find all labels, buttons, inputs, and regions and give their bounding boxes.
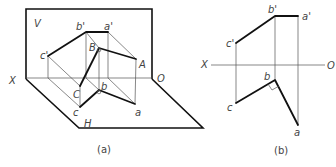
figure-a-pictorial: V H X O b' a' c' B A C b a c (a): [8, 9, 203, 155]
label-H: H: [84, 118, 92, 129]
caption-b: (b): [274, 145, 288, 156]
label-X-a: X: [8, 75, 17, 86]
label-b-a: b: [101, 81, 107, 92]
v-projection-cba-b: [236, 16, 298, 43]
label-O-b: O: [327, 60, 335, 71]
h-projection-cba-a: [80, 90, 135, 107]
projection-diagram: V H X O b' a' c' B A C b a c (a) X O b' …: [0, 0, 336, 167]
h-plane-frame: [26, 79, 203, 128]
label-a-prime-a: a': [104, 21, 113, 32]
label-b-prime-b: b': [268, 4, 277, 15]
label-c-prime-b: c': [226, 38, 234, 49]
label-b-prime-a: b': [76, 21, 85, 32]
label-c-prime-a: c': [40, 50, 48, 61]
label-c-b: c: [227, 102, 233, 113]
label-C: C: [73, 89, 80, 100]
label-a-b: a: [294, 127, 300, 138]
label-a-a: a: [135, 107, 141, 118]
figure-b-orthographic: X O b' a' c' b c a (b): [200, 4, 335, 156]
label-b-b: b: [264, 71, 270, 82]
label-V: V: [34, 18, 42, 29]
label-B: B: [89, 42, 96, 53]
label-A: A: [138, 59, 146, 70]
caption-a: (a): [97, 144, 111, 155]
label-O-a: O: [157, 73, 165, 84]
h-projection-cba-b: [236, 80, 298, 125]
label-a-prime-b: a': [302, 11, 311, 22]
label-X-b: X: [200, 59, 209, 70]
label-c-a: c: [73, 107, 79, 118]
